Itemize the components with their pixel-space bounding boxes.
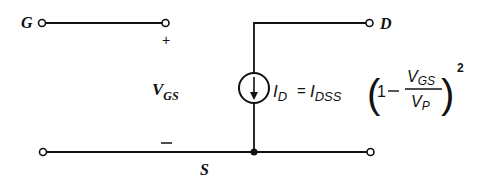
drain-wire [254,23,366,73]
source-right-terminal [367,149,374,156]
drain-current-equation: ID = IDSS ( 1 VGS VP ) 2 [273,61,464,116]
gate-open-terminal [162,20,169,27]
eq-denominator: VP [411,93,430,113]
source-label: S [200,161,209,178]
eq-close-paren: ) [441,72,454,116]
plus-sign: + [162,32,170,48]
gate-terminal [39,20,46,27]
vgs-label: VGS [152,80,179,103]
eq-exponent: 2 [457,61,464,75]
source-left-terminal [40,149,47,156]
junction-dot [251,149,258,156]
gate-label: G [21,14,33,31]
eq-numerator: VGS [407,68,435,88]
eq-one: 1 [377,83,386,100]
eq-equals: = [297,82,306,99]
drain-terminal [366,20,373,27]
drain-label: D [379,15,392,32]
eq-idss: IDSS [310,82,342,104]
eq-id: ID [273,82,287,104]
jfet-equivalent-circuit: G + VGS D S ID = IDSS ( 1 VGS VP ) 2 [0,0,487,181]
